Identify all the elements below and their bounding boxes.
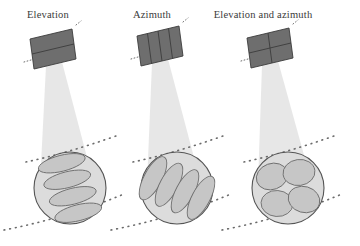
panel-label-azimuth: Azimuth bbox=[133, 9, 172, 20]
array-tick-top-right bbox=[293, 20, 298, 24]
array-tick-bottom-left bbox=[241, 59, 248, 61]
array-tick-top-right bbox=[183, 18, 188, 22]
panel-label-elevation-and-azimuth: Elevation and azimuth bbox=[214, 9, 313, 20]
panel-label-elevation: Elevation bbox=[27, 9, 70, 20]
array-tick-top-right bbox=[76, 21, 81, 25]
array-tick-bottom-left bbox=[131, 57, 138, 59]
array-tick-bottom-left bbox=[24, 60, 31, 62]
figure-canvas: ElevationAzimuthElevation and azimuth bbox=[0, 0, 360, 246]
antenna-beam-diagram: ElevationAzimuthElevation and azimuth bbox=[0, 0, 360, 246]
